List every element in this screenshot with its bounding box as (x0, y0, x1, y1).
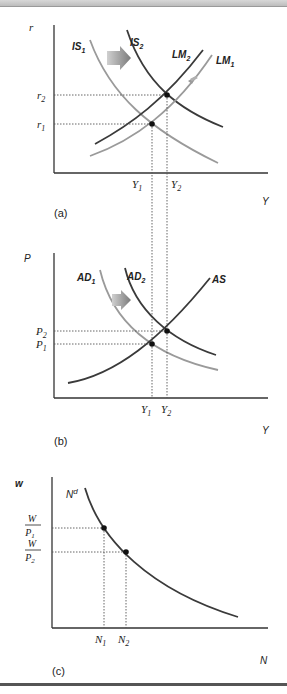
panel-c-x-label: N (260, 655, 268, 666)
labor-demand-curve (85, 488, 238, 617)
economics-figure: r Y (a) IS1 IS2 LM2 LM1 (0, 0, 287, 694)
labor-point-2 (123, 549, 129, 555)
svg-text:W: W (28, 538, 38, 549)
y1-tick-a: Y1 (132, 178, 142, 193)
panel-a-label: (a) (54, 207, 67, 219)
n2-tick: N2 (117, 633, 129, 648)
wp1-tick: W P1 (24, 513, 41, 540)
lm2-label: LM2 (172, 49, 190, 62)
n1-tick: N1 (94, 633, 106, 648)
ad-as-point-2 (164, 328, 170, 334)
as-curve (68, 278, 210, 383)
panel-c: w N (c) Nd W P1 W P2 (15, 477, 268, 677)
is2-label: IS2 (130, 37, 143, 50)
is-shift-arrow-icon (107, 46, 131, 70)
figure-frame: r Y (a) IS1 IS2 LM2 LM1 (0, 0, 287, 694)
panel-a-y-label: r (29, 21, 34, 33)
r2-tick: r2 (37, 89, 45, 104)
nd-label: Nd (66, 487, 78, 500)
ad1-label: AD1 (76, 272, 95, 285)
is1-label: IS1 (72, 41, 85, 54)
equilibrium-point-1 (149, 121, 155, 127)
panel-b-y-label: P (24, 253, 31, 264)
equilibrium-point-2 (164, 92, 170, 98)
r1-tick: r1 (37, 118, 45, 133)
svg-text:P2: P2 (24, 552, 35, 565)
panel-c-label: (c) (52, 665, 65, 677)
y2-tick-a: Y2 (171, 178, 181, 193)
labor-point-1 (101, 525, 107, 531)
panel-b-label: (b) (54, 435, 67, 447)
bottom-border (0, 683, 287, 686)
panel-b: P Y (b) AD1 AD2 AS P2 P1 Y1 Y2 (24, 253, 270, 447)
lm-shift-arrow-shaft (191, 77, 197, 80)
p1-tick: P1 (35, 338, 47, 353)
panel-b-x-label: Y (262, 425, 270, 436)
y1-tick-b: Y1 (141, 403, 151, 418)
wp2-tick: W P2 (24, 538, 41, 565)
ad-as-point-1 (149, 341, 155, 347)
y2-tick-b: Y2 (161, 403, 171, 418)
panel-a: r Y (a) IS1 IS2 LM2 LM1 (29, 21, 270, 344)
ad1-curve (100, 270, 218, 370)
svg-text:W: W (28, 513, 38, 524)
panel-c-y-label: w (15, 478, 24, 489)
lm1-label: LM1 (216, 55, 234, 68)
panel-a-x-label: Y (262, 196, 270, 207)
as-label: AS (211, 274, 226, 285)
